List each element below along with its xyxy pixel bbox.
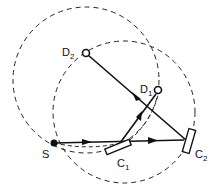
arrow-s-c1	[82, 139, 92, 145]
detector-d2	[83, 50, 90, 57]
label-d1: D1	[140, 83, 153, 98]
beam-s-to-c2	[54, 140, 184, 143]
diagram-canvas: S D2 D1 C1 C2	[0, 0, 220, 194]
label-s: S	[42, 148, 49, 160]
label-c1: C1	[117, 157, 130, 172]
label-c2: C2	[195, 148, 208, 163]
focusing-circle-1	[13, 7, 159, 153]
crystal-c2	[182, 129, 195, 154]
arrow-c1-c2	[148, 137, 158, 144]
source-point	[51, 140, 58, 147]
label-d2: D2	[62, 46, 75, 61]
detector-d1	[155, 87, 162, 94]
